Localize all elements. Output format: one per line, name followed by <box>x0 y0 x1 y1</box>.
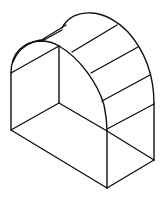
base-right-edge <box>107 131 154 160</box>
purlin-1 <box>72 25 117 52</box>
purlin-3 <box>102 75 150 101</box>
base-front-edge <box>107 160 154 188</box>
base-back-edge <box>11 103 59 130</box>
greenhouse-drawing: Isometric line drawing of an arched gree… <box>0 0 166 197</box>
purlin-2 <box>91 47 138 73</box>
base-left-edge <box>11 130 107 188</box>
base-inner-edge <box>59 103 107 131</box>
front-face-arch <box>59 46 107 131</box>
greenhouse-svg <box>0 0 166 197</box>
ridge-line-second <box>44 30 62 40</box>
purlin-4 <box>107 104 154 129</box>
